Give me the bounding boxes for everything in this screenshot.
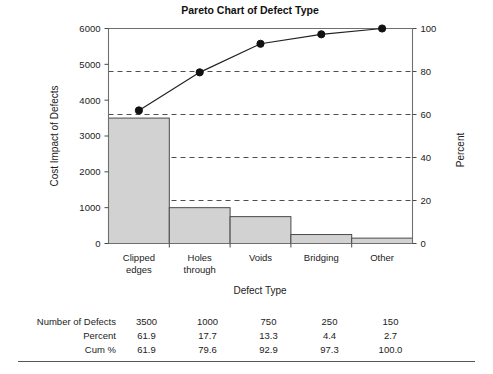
table-cell: 1000 [177, 316, 238, 330]
y2-tick-label: 100 [421, 23, 437, 34]
pareto-summary-table: Number of Defects35001000750250150Percen… [0, 316, 421, 358]
table-cell: 79.6 [177, 344, 238, 358]
category-label: Voids [249, 252, 272, 263]
table-cell: 13.3 [238, 330, 299, 344]
y2-tick-label: 0 [421, 238, 426, 249]
y2-tick-label: 20 [421, 195, 432, 206]
chart-canvas: Pareto Chart of Defect Type 010002000300… [0, 0, 493, 316]
y-tick-label: 4000 [79, 95, 100, 106]
bar [291, 235, 352, 244]
cumulative-point-marker [196, 69, 203, 76]
summary-data-table: Number of Defects35001000750250150Percen… [0, 316, 493, 358]
y2-tick-label: 40 [421, 152, 432, 163]
table-cell: 97.3 [299, 344, 360, 358]
y2-tick-label: 80 [421, 66, 432, 77]
category-label: Bridging [304, 252, 339, 263]
y-tick-label: 5000 [79, 59, 100, 70]
chart-title: Pareto Chart of Defect Type [181, 4, 319, 16]
y-tick-label: 6000 [79, 23, 100, 34]
cumulative-point-marker [135, 107, 142, 114]
y2-tick-label: 60 [421, 109, 432, 120]
table-cell: 61.9 [116, 330, 177, 344]
category-label: Clipped [123, 252, 155, 263]
cumulative-point-marker [379, 25, 386, 32]
category-label: through [184, 264, 216, 275]
table-cell: 61.9 [116, 344, 177, 358]
category-label: Holes [188, 252, 213, 263]
y-tick-label: 3000 [79, 130, 100, 141]
y2-axis-title: Percent [455, 133, 466, 168]
table-row-label: Cum % [0, 344, 116, 358]
table-row: Number of Defects35001000750250150 [0, 316, 421, 330]
table-row: Percent61.917.713.34.42.7 [0, 330, 421, 344]
y-axis-title: Cost Impact of Defects [49, 85, 60, 186]
bar [169, 208, 230, 244]
table-cell: 92.9 [238, 344, 299, 358]
x-axis-title: Defect Type [233, 285, 287, 296]
table-row-label: Percent [0, 330, 116, 344]
bar [352, 238, 413, 243]
right-axis: 020406080100 [413, 23, 437, 249]
category-label: edges [126, 264, 152, 275]
table-cell: 150 [360, 316, 421, 330]
y-tick-label: 1000 [79, 202, 100, 213]
table-row-label: Number of Defects [0, 316, 116, 330]
table-bottom-rule [18, 361, 475, 362]
bar [230, 217, 291, 244]
cumulative-point-marker [257, 40, 264, 47]
table-cell: 4.4 [299, 330, 360, 344]
category-label: Other [370, 252, 394, 263]
y-tick-label: 2000 [79, 166, 100, 177]
cumulative-percent-line [135, 25, 385, 114]
table-cell: 250 [299, 316, 360, 330]
table-cell: 3500 [116, 316, 177, 330]
pareto-chart-figure: Pareto Chart of Defect Type 010002000300… [0, 0, 493, 374]
table-cell: 750 [238, 316, 299, 330]
bar [109, 118, 170, 243]
table-cell: 2.7 [360, 330, 421, 344]
cumulative-point-marker [318, 31, 325, 38]
bar-series [109, 118, 413, 243]
y-tick-label: 0 [95, 238, 100, 249]
table-row: Cum %61.979.692.997.3100.0 [0, 344, 421, 358]
table-cell: 100.0 [360, 344, 421, 358]
table-cell: 17.7 [177, 330, 238, 344]
x-axis: ClippededgesHolesthroughVoidsBridgingOth… [123, 244, 394, 275]
left-axis: 0100020003000400050006000 [79, 23, 108, 249]
